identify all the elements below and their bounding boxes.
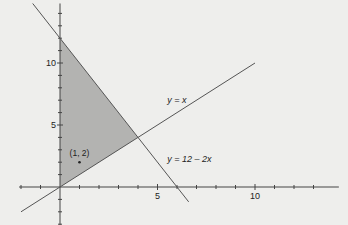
y-tick-label-10: 10 bbox=[46, 58, 56, 68]
feasible-region bbox=[60, 38, 138, 187]
label-y-equals-x: y = x bbox=[166, 95, 187, 105]
x-tick-label-10: 10 bbox=[250, 191, 260, 201]
plot-area: 5 10 5 10 y = x y = 12 – 2x (1, 2) bbox=[0, 0, 348, 225]
label-y-equals-12-minus-2x: y = 12 – 2x bbox=[166, 154, 212, 164]
y-tick-label-5: 5 bbox=[51, 120, 56, 130]
point-label-1-2: (1, 2) bbox=[70, 148, 90, 158]
point-1-2 bbox=[78, 161, 81, 164]
line-y-equals-12-minus-2x bbox=[33, 3, 189, 201]
x-tick-label-5: 5 bbox=[155, 191, 160, 201]
